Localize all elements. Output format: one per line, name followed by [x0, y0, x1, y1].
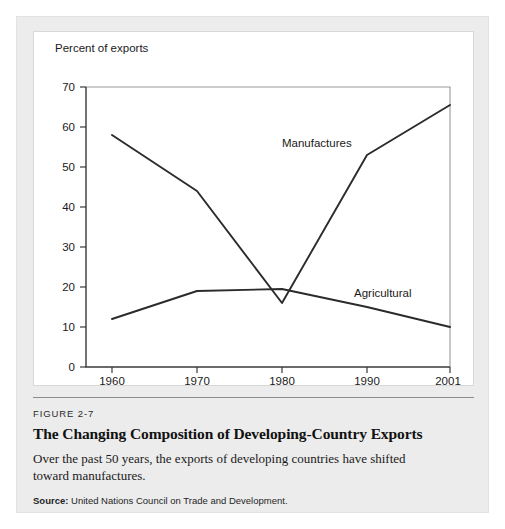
chart-panel: Percent of exports 0 10 20 — [33, 31, 474, 386]
plot-frame — [86, 87, 450, 367]
figure-source: Source: United Nations Council on Trade … — [33, 495, 474, 506]
y-tick-label: 20 — [62, 281, 75, 293]
y-axis-tick-labels: 0 10 20 30 40 50 60 70 — [62, 81, 75, 373]
y-tick-label: 40 — [62, 201, 75, 213]
source-label: Source: — [33, 495, 68, 506]
figure-description: Over the past 50 years, the exports of d… — [33, 450, 433, 484]
series-line-manufactures — [112, 105, 450, 303]
x-axis-ticks — [112, 367, 450, 373]
x-tick-label: 1980 — [269, 375, 295, 385]
figure-number: FIGURE 2-7 — [33, 408, 474, 419]
series-label-manufactures: Manufactures — [282, 137, 352, 149]
y-tick-label: 70 — [62, 81, 75, 93]
x-tick-label: 1970 — [184, 375, 210, 385]
x-tick-label: 2001 — [435, 375, 461, 385]
y-tick-label: 0 — [69, 361, 75, 373]
source-text: United Nations Council on Trade and Deve… — [71, 495, 288, 506]
y-tick-label: 60 — [62, 121, 75, 133]
figure-caption-block: FIGURE 2-7 The Changing Composition of D… — [33, 397, 474, 506]
y-tick-label: 50 — [62, 161, 75, 173]
figure-card: Percent of exports 0 10 20 — [16, 16, 489, 513]
y-tick-label: 30 — [62, 241, 75, 253]
series-label-agricultural: Agricultural — [354, 287, 412, 299]
figure-title: The Changing Composition of Developing-C… — [33, 425, 474, 443]
y-tick-label: 10 — [62, 321, 75, 333]
x-tick-label: 1960 — [99, 375, 125, 385]
plot-axes — [86, 87, 450, 367]
x-axis-tick-labels: 1960 1970 1980 1990 2001 — [99, 375, 461, 385]
x-tick-label: 1990 — [354, 375, 380, 385]
line-chart: 0 10 20 30 40 50 60 70 1960 1970 — [34, 32, 473, 385]
y-axis-ticks — [80, 87, 86, 367]
